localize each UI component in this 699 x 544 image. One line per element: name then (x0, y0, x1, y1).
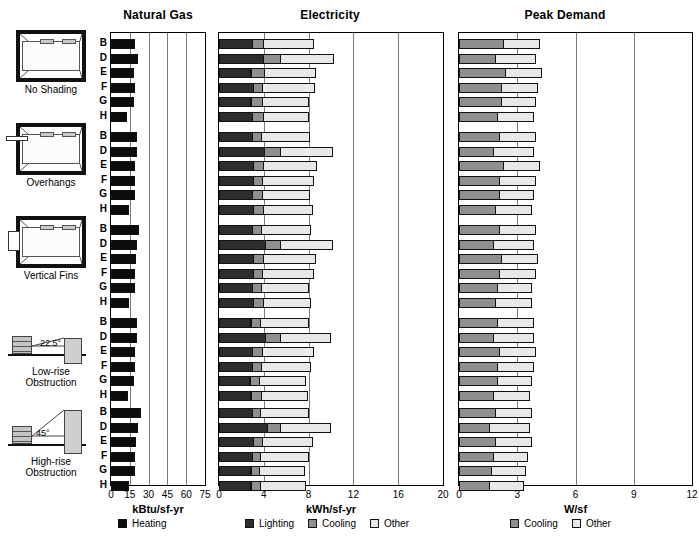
segment-other (262, 347, 314, 357)
scenario-caption-vertical-fins: Vertical Fins (6, 270, 96, 281)
segment-other (263, 39, 313, 49)
legend-swatch-cooling-icon (510, 519, 519, 528)
window-left (40, 132, 54, 137)
segment-cooling (459, 240, 494, 250)
case-letter-high-rise-obstruction-D: D (93, 422, 107, 432)
tick-electricity-4: 4 (249, 489, 279, 500)
segment-heating (111, 205, 129, 215)
segment-cooling (459, 466, 492, 476)
segment-other (499, 269, 536, 279)
bar-peak-demand-overhangs-G (459, 190, 534, 200)
case-letter-overhangs-E: E (93, 160, 107, 170)
room-plan-diagram (10, 123, 92, 175)
segment-other (499, 190, 534, 200)
scenario-overhangs: Overhangs (6, 123, 96, 188)
legend-swatch-lighting-icon (245, 519, 254, 528)
bar-electricity-overhangs-F (219, 176, 314, 186)
segment-heating (111, 39, 135, 49)
tick-peak-demand-12: 12 (677, 489, 699, 500)
room-plan-diagram (10, 216, 92, 268)
segment-other (262, 269, 314, 279)
segment-other (497, 362, 534, 372)
segment-other (497, 376, 532, 386)
tick-peak-demand-0: 0 (444, 489, 474, 500)
case-letter-low-rise-obstruction-E: E (93, 346, 107, 356)
segment-cooling (459, 68, 506, 78)
segment-lighting (219, 83, 254, 93)
bar-electricity-overhangs-E (219, 161, 317, 171)
bar-electricity-vertical-fins-D (219, 240, 333, 250)
case-letter-no-shading-E: E (93, 67, 107, 77)
window-right (62, 225, 76, 230)
case-letter-low-rise-obstruction-H: H (93, 390, 107, 400)
segment-lighting (219, 97, 251, 107)
segment-cooling (265, 240, 281, 250)
panel-title-electricity: Electricity (250, 8, 410, 22)
segment-other (493, 391, 530, 401)
bar-natural-gas-no-shading-E (111, 68, 134, 78)
segment-other (264, 68, 316, 78)
segment-cooling (251, 97, 263, 107)
segment-cooling (459, 97, 502, 107)
segment-other (263, 205, 312, 215)
bar-natural-gas-high-rise-obstruction-B (111, 408, 141, 418)
bar-peak-demand-no-shading-G (459, 97, 536, 107)
segment-other (262, 176, 314, 186)
bar-peak-demand-high-rise-obstruction-G (459, 466, 526, 476)
chart-page: Natural Gas Electricity Peak Demand No S… (0, 0, 699, 544)
segment-other (491, 466, 526, 476)
segment-other (259, 466, 305, 476)
bar-natural-gas-low-rise-obstruction-B (111, 318, 137, 328)
bar-natural-gas-vertical-fins-G (111, 283, 135, 293)
segment-heating (111, 97, 134, 107)
segment-other (263, 161, 317, 171)
case-letter-vertical-fins-D: D (93, 239, 107, 249)
legend-item-other: Other (572, 518, 611, 529)
caption-line: Vertical Fins (6, 270, 96, 281)
bar-peak-demand-overhangs-B (459, 132, 536, 142)
caption-line: Obstruction (6, 467, 96, 478)
bar-electricity-high-rise-obstruction-D (219, 423, 331, 433)
segment-lighting (219, 205, 254, 215)
bar-natural-gas-high-rise-obstruction-D (111, 423, 138, 433)
tick-electricity-16: 16 (383, 489, 413, 500)
segment-heating (111, 254, 136, 264)
segment-other (501, 83, 538, 93)
segment-cooling (459, 254, 502, 264)
bar-electricity-low-rise-obstruction-F (219, 362, 311, 372)
bar-electricity-low-rise-obstruction-E (219, 347, 314, 357)
case-letter-overhangs-H: H (93, 204, 107, 214)
segment-other (497, 318, 534, 328)
bar-peak-demand-no-shading-E (459, 68, 542, 78)
segment-cooling (459, 83, 502, 93)
bar-peak-demand-no-shading-F (459, 83, 538, 93)
legend-label-other: Other (384, 518, 409, 529)
bar-electricity-no-shading-B (219, 39, 314, 49)
segment-heating (111, 83, 135, 93)
bar-peak-demand-overhangs-D (459, 147, 534, 157)
bar-peak-demand-vertical-fins-F (459, 269, 536, 279)
segment-heating (111, 391, 128, 401)
segment-other (493, 333, 534, 343)
axis-unit-electricity: kWh/sf-yr (218, 503, 444, 515)
segment-lighting (219, 466, 251, 476)
case-letter-overhangs-F: F (93, 175, 107, 185)
segment-cooling (267, 423, 280, 433)
segment-lighting (219, 147, 265, 157)
segment-cooling (263, 54, 281, 64)
segment-other (499, 176, 536, 186)
segment-cooling (459, 112, 498, 122)
segment-other (280, 147, 333, 157)
bar-peak-demand-low-rise-obstruction-G (459, 376, 532, 386)
segment-heating (111, 333, 137, 343)
segment-cooling (264, 147, 281, 157)
bar-electricity-high-rise-obstruction-B (219, 408, 309, 418)
legend-label-other: Other (586, 518, 611, 529)
segment-other (501, 254, 538, 264)
bar-electricity-no-shading-E (219, 68, 316, 78)
legend-item-heating: Heating (118, 518, 166, 529)
case-letter-no-shading-B: B (93, 38, 107, 48)
case-letter-overhangs-D: D (93, 146, 107, 156)
segment-cooling (459, 225, 500, 235)
bar-natural-gas-high-rise-obstruction-F (111, 452, 135, 462)
